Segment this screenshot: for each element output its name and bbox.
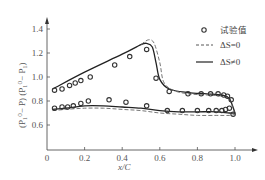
data-point-circle-icon (124, 100, 128, 104)
legend-circle-icon (202, 28, 206, 32)
data-point-circle-icon (144, 47, 148, 51)
y-tick-label: 1.4 (32, 24, 44, 34)
legend: 试验值 ΔS=0 ΔS≠0 (196, 25, 247, 67)
x-axis-title: x/C (117, 162, 131, 172)
x-tick-label: 0.2 (79, 153, 90, 163)
x-tick-label: 0 (45, 153, 50, 163)
legend-label-experiment: 试验值 (220, 25, 247, 35)
data-point-circle-icon (167, 89, 171, 93)
y-axis-title: (P₁⁰− P) (P₁⁰− P₁) (17, 62, 27, 128)
curves (53, 40, 235, 116)
data-point-circle-icon (60, 87, 64, 91)
data-point-circle-icon (73, 81, 77, 85)
data-point-circle-icon (107, 98, 111, 102)
legend-label-dS-zero: ΔS=0 (220, 40, 241, 50)
axes: 00.20.40.60.81.00.60.81.01.21.4 (32, 17, 258, 163)
y-tick-label: 0.6 (32, 120, 44, 130)
x-tick-label: 1.0 (229, 153, 241, 163)
y-tick-label: 0.8 (32, 96, 44, 106)
x-tick-label: 0.6 (154, 153, 166, 163)
y-tick-label: 1.2 (32, 48, 43, 58)
data-point-circle-icon (88, 75, 92, 79)
y-tick-label: 1.0 (32, 72, 44, 82)
data-point-circle-icon (128, 54, 132, 58)
curve-dS-zero (141, 40, 235, 114)
y-axis-arrow-icon (45, 17, 49, 24)
x-axis-arrow-icon (252, 148, 258, 152)
data-point-circle-icon (79, 101, 83, 105)
legend-label-dS-nonzero: ΔS≠0 (220, 57, 241, 67)
chart: 00.20.40.60.81.00.60.81.01.21.4 试验值 ΔS=0… (0, 0, 265, 180)
data-point-circle-icon (79, 78, 83, 82)
x-tick-label: 0.8 (192, 153, 204, 163)
data-point-circle-icon (144, 104, 148, 108)
data-point-circle-icon (112, 63, 116, 67)
data-point-circle-icon (154, 76, 158, 80)
data-point-circle-icon (86, 99, 90, 103)
data-point-circle-icon (67, 83, 71, 87)
